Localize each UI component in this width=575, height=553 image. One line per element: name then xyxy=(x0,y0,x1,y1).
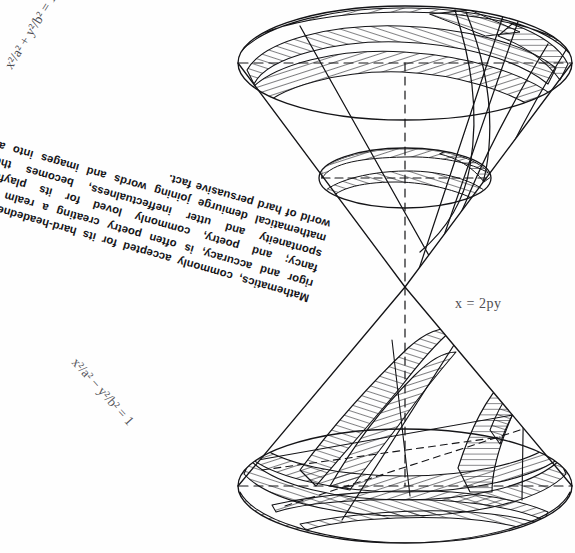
prose-block-wrapper: Mathematics, commonly accepted for its h… xyxy=(0,123,332,306)
scanned-book-page: Mathematics, commonly accepted for its h… xyxy=(0,0,575,553)
parabola-equation-text: x = 2py xyxy=(455,296,501,311)
upper-inner-section xyxy=(319,148,492,208)
lower-nappe xyxy=(238,287,572,548)
mathematics-poetry-paragraph: Mathematics, commonly accepted for its h… xyxy=(0,123,332,306)
ellipse-equation-label: x²/a² + y²/b² = 1 xyxy=(1,0,60,72)
parabola-equation-label: x = 2py xyxy=(455,296,501,312)
hyperbola-equation-label: x²/a² − y²/b² = 1 xyxy=(68,355,137,429)
hyperbola-equation-text: x²/a² − y²/b² = 1 xyxy=(69,355,137,429)
ellipse-equation-text: x²/a² + y²/b² = 1 xyxy=(1,0,59,72)
